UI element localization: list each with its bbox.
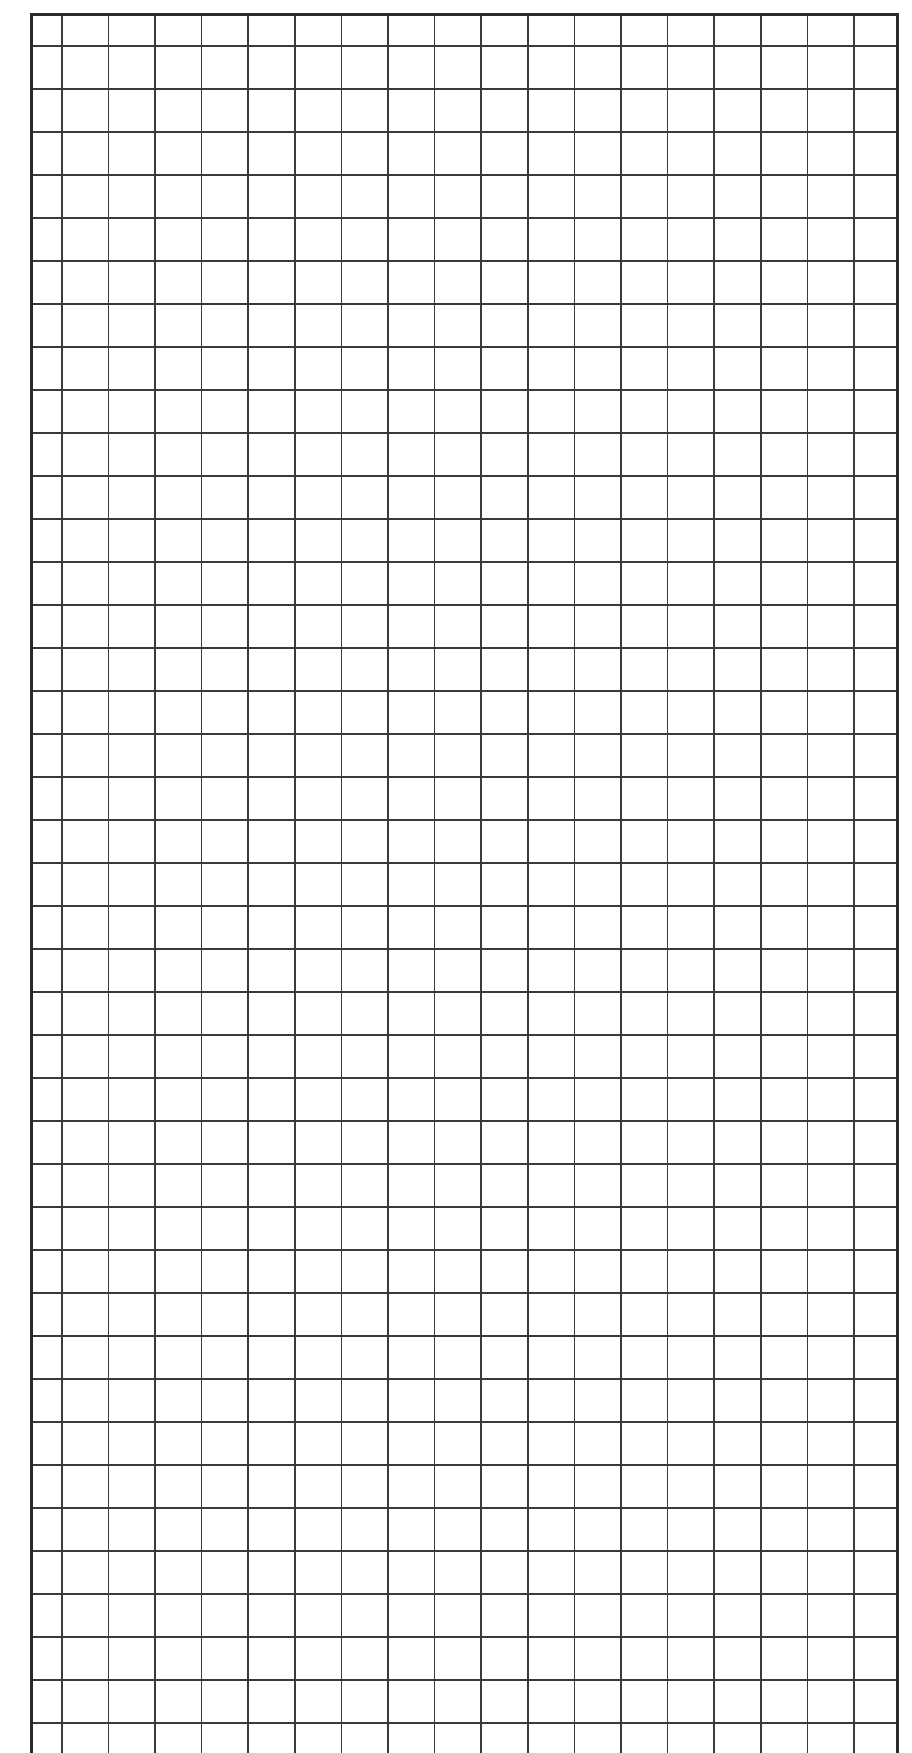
grid-vertical-line xyxy=(108,16,110,1753)
grid-horizontal-line xyxy=(33,647,896,649)
grid-horizontal-line xyxy=(33,1464,896,1466)
grid-horizontal-line xyxy=(33,1378,896,1380)
grid-vertical-line xyxy=(387,16,389,1753)
grid-horizontal-line xyxy=(33,991,896,993)
grid-horizontal-line xyxy=(33,1163,896,1165)
grid-vertical-line xyxy=(760,16,762,1753)
grid-vertical-line xyxy=(341,16,343,1753)
grid-horizontal-line xyxy=(33,1206,896,1208)
grid-horizontal-line xyxy=(33,1593,896,1595)
grid-vertical-line xyxy=(154,16,156,1753)
grid-horizontal-line xyxy=(33,174,896,176)
grid-horizontal-line xyxy=(33,432,896,434)
grid-horizontal-line xyxy=(33,475,896,477)
grid-horizontal-line xyxy=(33,1249,896,1251)
grid-vertical-line xyxy=(667,16,669,1753)
grid-vertical-line xyxy=(620,16,622,1753)
grid-horizontal-line xyxy=(33,733,896,735)
grid-vertical-line xyxy=(713,16,715,1753)
grid-horizontal-line xyxy=(33,862,896,864)
grid-horizontal-line xyxy=(33,1034,896,1036)
grid-horizontal-line xyxy=(33,88,896,90)
grid-vertical-line xyxy=(480,16,482,1753)
grid-horizontal-line xyxy=(33,776,896,778)
grid-horizontal-line xyxy=(33,45,896,47)
grid-horizontal-line xyxy=(33,1421,896,1423)
grid-vertical-line xyxy=(247,16,249,1753)
grid-horizontal-line xyxy=(33,604,896,606)
grid-horizontal-line xyxy=(33,948,896,950)
grid-horizontal-line xyxy=(33,1335,896,1337)
grid-horizontal-line xyxy=(33,303,896,305)
grid-horizontal-line xyxy=(33,1636,896,1638)
grid-horizontal-line xyxy=(33,1722,896,1724)
grid-horizontal-line xyxy=(33,346,896,348)
grid-horizontal-line xyxy=(33,1120,896,1122)
grid-vertical-line xyxy=(434,16,436,1753)
grid-vertical-line xyxy=(853,16,855,1753)
grid-horizontal-line xyxy=(33,1292,896,1294)
grid-horizontal-line xyxy=(33,1507,896,1509)
grid-vertical-line xyxy=(807,16,809,1753)
grid-vertical-line xyxy=(527,16,529,1753)
grid-horizontal-line xyxy=(33,131,896,133)
grid-horizontal-line xyxy=(33,905,896,907)
grid-vertical-line xyxy=(574,16,576,1753)
grid-horizontal-line xyxy=(33,1679,896,1681)
grid-vertical-line xyxy=(201,16,203,1753)
grid-horizontal-line xyxy=(33,260,896,262)
grid-horizontal-line xyxy=(33,518,896,520)
grid-vertical-line xyxy=(61,16,63,1753)
grid-sheet xyxy=(30,13,899,1753)
grid-horizontal-line xyxy=(33,1550,896,1552)
grid-horizontal-line xyxy=(33,819,896,821)
grid-horizontal-line xyxy=(33,217,896,219)
grid-vertical-line xyxy=(294,16,296,1753)
grid-horizontal-line xyxy=(33,561,896,563)
grid-horizontal-line xyxy=(33,690,896,692)
grid-horizontal-line xyxy=(33,389,896,391)
grid-horizontal-line xyxy=(33,1077,896,1079)
